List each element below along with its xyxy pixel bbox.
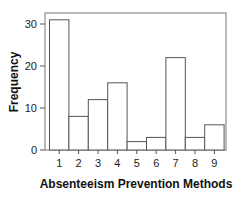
bar-1: [50, 20, 69, 150]
y-axis: 0102030: [25, 18, 45, 156]
bars: [50, 20, 225, 150]
x-tick-label: 5: [134, 157, 140, 169]
bar-6: [147, 137, 166, 150]
y-tick-label: 10: [25, 102, 37, 114]
bar-2: [69, 116, 88, 150]
x-tick-label: 1: [56, 157, 62, 169]
x-tick-label: 7: [173, 157, 179, 169]
bar-8: [185, 137, 204, 150]
x-axis-title: Absenteeism Prevention Methods: [40, 177, 233, 191]
x-tick-label: 2: [76, 157, 82, 169]
histogram-chart: 0102030 123456789 Absenteeism Prevention…: [0, 0, 239, 205]
y-axis-title: Frequency: [7, 51, 21, 112]
x-tick-label: 3: [95, 157, 101, 169]
x-axis: 123456789: [56, 150, 217, 169]
bar-5: [127, 142, 146, 150]
x-tick-label: 8: [192, 157, 198, 169]
bar-4: [108, 83, 127, 150]
y-tick-label: 30: [25, 18, 37, 30]
bar-7: [166, 58, 185, 150]
x-tick-label: 6: [153, 157, 159, 169]
y-tick-label: 0: [31, 144, 37, 156]
x-tick-label: 4: [114, 157, 120, 169]
y-tick-label: 20: [25, 60, 37, 72]
bar-3: [88, 100, 107, 150]
bar-9: [205, 125, 224, 150]
x-tick-label: 9: [211, 157, 217, 169]
